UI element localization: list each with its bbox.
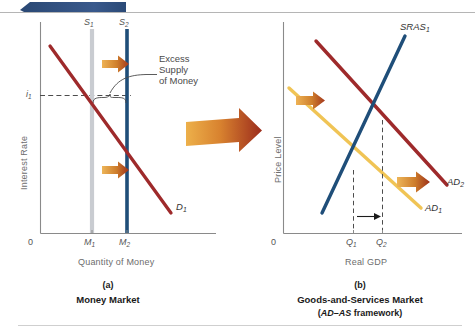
panel-a-demand-label: D1 (176, 202, 187, 212)
panel-b-origin-label: 0 (271, 238, 276, 247)
caption-ad-as: AD–AS (321, 308, 352, 318)
panel-b-caption-subtitle: (AD–AS framework) (252, 309, 468, 318)
panel-a-shift-arrow-upper (102, 56, 129, 73)
panel-b-ad1-curve (289, 88, 421, 208)
panel-a-x-tick-m1: M1 (84, 238, 95, 247)
panel-a-annotation-leader (110, 75, 157, 94)
panel-b-caption-title: Goods-and-Services Market (252, 295, 468, 305)
transmission-arrow (186, 108, 262, 152)
panel-b-x-tick-q2: Q2 (376, 238, 387, 247)
annotation-line-2: Supply (159, 64, 198, 75)
figure-container: i1 0 M1 M2 S1 S2 D1 Excess Supply of Mon… (0, 0, 475, 331)
panel-b-caption-letter: (b) (252, 281, 468, 290)
panel-b-ad1-label: AD1 (425, 203, 442, 213)
panel-b-x-tick-q1: Q1 (346, 238, 357, 247)
header-ribbon (20, 2, 126, 12)
panel-b-y-axis-label: Price Level (274, 136, 283, 183)
panel-b-ad2-curve (316, 41, 447, 185)
panel-a-y-tick-i1: i1 (26, 90, 32, 99)
panel-a-supply-2-label: S2 (119, 18, 129, 27)
panel-b-sras1-label: SRAS1 (400, 22, 430, 32)
panel-a-excess-supply-annotation: Excess Supply of Money (159, 53, 198, 86)
annotation-line-1: Excess (159, 53, 198, 64)
panel-a-caption-letter: (a) (0, 281, 216, 290)
panel-a-shift-arrow-lower (102, 162, 129, 179)
panel-a-supply-1-label: S1 (84, 18, 94, 27)
panel-a-demand-curve (50, 46, 171, 213)
annotation-line-3: of Money (159, 75, 198, 86)
panel-b-ad2-label: AD2 (447, 177, 464, 187)
panel-b-output-expansion-arrow (357, 213, 381, 220)
panel-a-y-axis-label: Interest Rate (20, 136, 29, 190)
panel-a-caption-title: Money Market (0, 295, 216, 305)
panel-b-x-axis-label: Real GDP (345, 258, 387, 267)
panel-a-origin-label: 0 (28, 238, 33, 247)
panel-a-x-axis-label: Quantity of Money (78, 258, 154, 267)
panel-a-x-tick-m2: M2 (119, 238, 130, 247)
caption-framework: framework) (351, 308, 402, 318)
